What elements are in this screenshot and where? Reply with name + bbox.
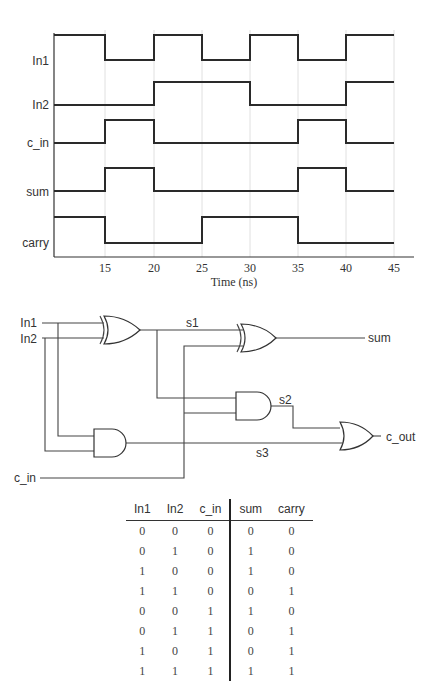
cell: 0 (159, 561, 192, 581)
cell: 1 (270, 581, 313, 601)
cell: 0 (126, 621, 159, 641)
x-tick-label: 25 (196, 261, 208, 275)
cell: 0 (191, 541, 230, 561)
signal-label-sum: sum (26, 185, 49, 199)
signal-label-carry: carry (22, 236, 49, 250)
net-label-s1: s1 (186, 316, 199, 330)
xor-gate-1 (100, 316, 140, 344)
cell: 0 (159, 601, 192, 621)
header-carry: carry (270, 499, 313, 521)
waveform-in1 (54, 35, 394, 60)
cell: 0 (191, 581, 230, 601)
cell: 0 (270, 521, 313, 542)
table-row: 00000 (126, 521, 313, 542)
cell: 0 (159, 641, 192, 661)
signal-label-in2: In2 (32, 98, 49, 112)
or-gate (340, 422, 373, 450)
waveform-c-in (54, 120, 394, 143)
cell: 1 (270, 621, 313, 641)
x-tick-label: 15 (99, 261, 111, 275)
cell: 1 (159, 581, 192, 601)
cell: 1 (230, 601, 270, 621)
cell: 0 (230, 581, 270, 601)
cell: 1 (126, 641, 159, 661)
circuit-input-c-in: c_in (14, 471, 36, 485)
cell: 0 (126, 601, 159, 621)
and-gate-s2 (236, 392, 271, 420)
truth-table: In1 In2 c_in sum carry 00000 01010 10010… (126, 499, 313, 681)
cell: 1 (230, 561, 270, 581)
net-label-s3: s3 (256, 446, 269, 460)
header-sum: sum (230, 499, 270, 521)
waveform-carry (54, 217, 394, 243)
circuit-output-c-out: c_out (386, 430, 416, 444)
cell: 0 (230, 621, 270, 641)
table-row: 11111 (126, 661, 313, 681)
xor-gate-2 (237, 324, 276, 352)
x-tick-label: 35 (292, 261, 304, 275)
truth-table-header: In1 In2 c_in sum carry (126, 499, 313, 521)
cell: 0 (230, 521, 270, 542)
header-c-in: c_in (191, 499, 230, 521)
x-tick-label: 20 (148, 261, 160, 275)
cell: 1 (230, 541, 270, 561)
cell: 1 (191, 621, 230, 641)
cell: 1 (191, 601, 230, 621)
table-row: 10010 (126, 561, 313, 581)
x-tick-label: 40 (340, 261, 352, 275)
circuit-output-sum: sum (368, 331, 391, 345)
cell: 1 (159, 661, 192, 681)
cell: 1 (230, 661, 270, 681)
x-tick-label: 30 (244, 261, 256, 275)
cell: 0 (270, 541, 313, 561)
cell: 1 (191, 641, 230, 661)
cell: 0 (230, 641, 270, 661)
cell: 0 (270, 561, 313, 581)
cell: 0 (126, 541, 159, 561)
wires (40, 323, 381, 478)
cell: 1 (270, 641, 313, 661)
signal-label-in1: In1 (32, 54, 49, 68)
net-label-s2: s2 (279, 393, 292, 407)
waveform-sum (54, 168, 394, 191)
cell: 1 (126, 561, 159, 581)
cell: 1 (126, 661, 159, 681)
table-row: 00110 (126, 601, 313, 621)
cell: 1 (159, 541, 192, 561)
cell: 0 (126, 521, 159, 542)
cell: 1 (270, 661, 313, 681)
signal-label-c-in: c_in (27, 136, 49, 150)
cell: 1 (126, 581, 159, 601)
cell: 1 (191, 661, 230, 681)
circuit-input-in2: In2 (20, 332, 37, 346)
header-in1: In1 (126, 499, 159, 521)
cell: 1 (159, 621, 192, 641)
cell: 0 (159, 521, 192, 542)
table-row: 01010 (126, 541, 313, 561)
table-row: 10101 (126, 641, 313, 661)
cell: 0 (270, 601, 313, 621)
header-in2: In2 (159, 499, 192, 521)
cell: 0 (191, 561, 230, 581)
and-gate-s3 (94, 429, 126, 457)
x-axis-title: Time (ns) (211, 275, 258, 289)
cell: 0 (191, 521, 230, 542)
x-tick-label: 45 (388, 261, 400, 275)
table-row: 01101 (126, 621, 313, 641)
circuit-input-in1: In1 (20, 316, 37, 330)
table-row: 11001 (126, 581, 313, 601)
timing-diagram: In1 In2 c_in sum carry 15 20 25 30 35 40… (0, 0, 433, 300)
